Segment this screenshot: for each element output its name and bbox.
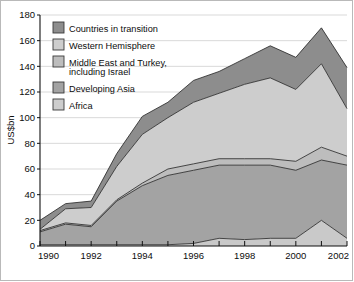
x-axis-tick-labels: 1990199219941996199820002002: [38, 250, 349, 261]
legend-label: Middle East and Turkey,: [69, 58, 167, 68]
x-tick-label: 2002: [328, 250, 349, 261]
chart-figure: 020406080100120140160180 199019921994199…: [0, 0, 354, 282]
y-tick-label: 40: [24, 189, 35, 200]
x-tick-label: 1998: [234, 250, 255, 261]
x-tick-label: 1994: [132, 250, 153, 261]
legend-swatch: [53, 39, 64, 50]
legend-label: Africa: [69, 101, 93, 111]
y-tick-label: 140: [19, 61, 35, 72]
stacked-area-chart: 020406080100120140160180 199019921994199…: [0, 0, 354, 282]
x-tick-label: 2000: [285, 250, 306, 261]
legend-swatch: [53, 22, 64, 33]
legend-label: Western Hemisphere: [69, 41, 155, 51]
x-tick-label: 1990: [38, 250, 59, 261]
y-tick-label: 20: [24, 215, 35, 226]
legend-swatch: [53, 56, 64, 67]
x-tick-label: 1996: [183, 250, 204, 261]
legend-swatch: [53, 99, 64, 110]
legend-label: Countries in transition: [69, 24, 158, 34]
y-tick-label: 120: [19, 86, 35, 97]
y-tick-label: 60: [24, 163, 35, 174]
legend-label-line2: including Israel: [69, 67, 130, 77]
y-axis-tick-labels: 020406080100120140160180: [19, 9, 40, 251]
legend-swatch: [53, 82, 64, 93]
chart-legend: Countries in transitionWestern Hemispher…: [53, 22, 167, 111]
y-tick-label: 180: [19, 9, 35, 20]
legend-label: Developing Asia: [69, 84, 136, 94]
y-tick-label: 80: [24, 138, 35, 149]
plot-area-wrapper: 020406080100120140160180 199019921994199…: [0, 0, 354, 282]
y-axis-title: US$bn: [5, 115, 16, 144]
y-tick-label: 0: [30, 240, 35, 251]
y-tick-label: 100: [19, 112, 35, 123]
y-tick-label: 160: [19, 35, 35, 46]
x-tick-label: 1992: [81, 250, 102, 261]
